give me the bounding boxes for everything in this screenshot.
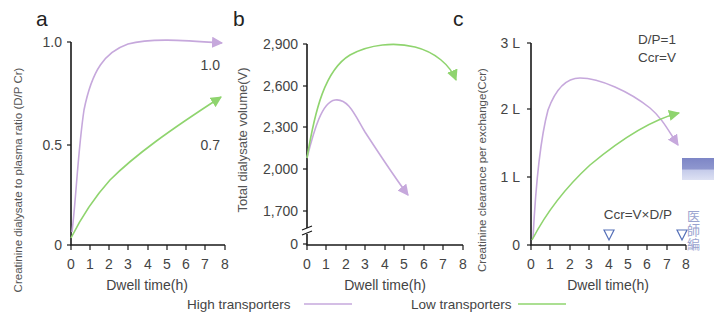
x-tick-labels-c: 0 1 2 3 4 5 6 7 8 (527, 256, 690, 272)
triangle-marker-4h-icon (604, 230, 614, 240)
panel-letter-c: c (453, 7, 464, 30)
y-tick-c: 2 L (501, 101, 521, 117)
high-transporter-curve-b (307, 100, 408, 195)
low-transporter-curve-b (307, 44, 456, 158)
svg-text:3: 3 (124, 256, 132, 272)
formula-ccr: Ccr=V×D/P (604, 207, 672, 222)
svg-text:5: 5 (400, 256, 408, 272)
y-tick-b: 2,900 (263, 36, 298, 52)
annotation-low-a: 0.7 (201, 137, 221, 153)
watermark-bar (682, 158, 714, 180)
svg-text:6: 6 (420, 256, 428, 272)
svg-text:3: 3 (361, 256, 369, 272)
svg-text:2: 2 (342, 256, 350, 272)
svg-text:1: 1 (546, 256, 554, 272)
panel-letter-b: b (233, 7, 245, 30)
svg-text:1: 1 (322, 256, 330, 272)
note-dp-equals-1: D/P=1 (638, 32, 676, 47)
svg-text:7: 7 (439, 256, 447, 272)
svg-text:2: 2 (566, 256, 574, 272)
svg-text:8: 8 (221, 256, 229, 272)
triangle-marker-8h-icon (677, 230, 687, 240)
svg-text:0: 0 (303, 256, 311, 272)
svg-text:4: 4 (605, 256, 613, 272)
svg-text:8: 8 (459, 256, 467, 272)
svg-text:0: 0 (67, 256, 75, 272)
y-axis-label-b: Total dialysate volume(V) (235, 67, 250, 212)
svg-text:6: 6 (643, 256, 651, 272)
y-tick-b: 0 (290, 236, 298, 252)
panel-c: c Creatinine clearance per exchange(Ccr)… (453, 7, 690, 293)
y-tick-a: 1.0 (43, 34, 63, 50)
svg-text:5: 5 (163, 256, 171, 272)
y-axis-label-c: Creatinine clearance per exchange(Ccr) (476, 68, 488, 272)
figure-canvas: a Creatinine dialysate to plasma ratio (… (0, 0, 714, 321)
x-axis-label-a: Dwell time(h) (106, 277, 188, 293)
svg-text:3: 3 (585, 256, 593, 272)
panel-b: b Total dialysate volume(V) 2,900 2,600 … (233, 7, 467, 293)
y-tick-b: 2,300 (263, 119, 298, 135)
svg-text:7: 7 (663, 256, 671, 272)
axis-lines-b (307, 44, 463, 245)
y-tick-a: 0.5 (43, 137, 63, 153)
high-transporter-curve-a (72, 40, 222, 232)
legend-low-label: Low transporters (411, 297, 512, 312)
annotation-high-a: 1.0 (201, 57, 221, 73)
svg-text:4: 4 (144, 256, 152, 272)
y-tick-c: 1 L (501, 169, 521, 185)
y-tick-a: 0 (54, 237, 62, 253)
svg-text:2: 2 (105, 256, 113, 272)
panel-a: a Creatinine dialysate to plasma ratio (… (12, 7, 229, 293)
y-tick-b: 1,700 (263, 203, 298, 219)
note-ccr-equals-v: Ccr=V (638, 50, 676, 65)
svg-text:8: 8 (682, 256, 690, 272)
y-tick-b: 2,000 (263, 161, 298, 177)
svg-text:6: 6 (182, 256, 190, 272)
svg-text:1: 1 (86, 256, 94, 272)
x-tick-labels-a: 0 1 2 3 4 5 6 7 8 (67, 256, 229, 272)
x-tick-labels-b: 0 1 2 3 4 5 6 7 8 (303, 256, 467, 272)
x-axis-label-b: Dwell time(h) (344, 277, 426, 293)
svg-text:7: 7 (201, 256, 209, 272)
legend-high-label: High transporters (187, 297, 291, 312)
low-transporter-curve-a (71, 97, 221, 238)
panel-letter-a: a (36, 7, 48, 30)
watermark-text: 医師編 (687, 210, 703, 252)
y-tick-c: 3 L (501, 35, 521, 51)
svg-text:4: 4 (381, 256, 389, 272)
y-axis-label-a: Creatinine dialysate to plasma ratio (D/… (12, 67, 24, 292)
svg-text:0: 0 (527, 256, 535, 272)
y-tick-b: 2,600 (263, 78, 298, 94)
x-axis-label-c: Dwell time(h) (567, 277, 649, 293)
svg-text:5: 5 (624, 256, 632, 272)
legend: High transporters Low transporters (187, 297, 566, 312)
y-tick-c: 0 (512, 237, 520, 253)
